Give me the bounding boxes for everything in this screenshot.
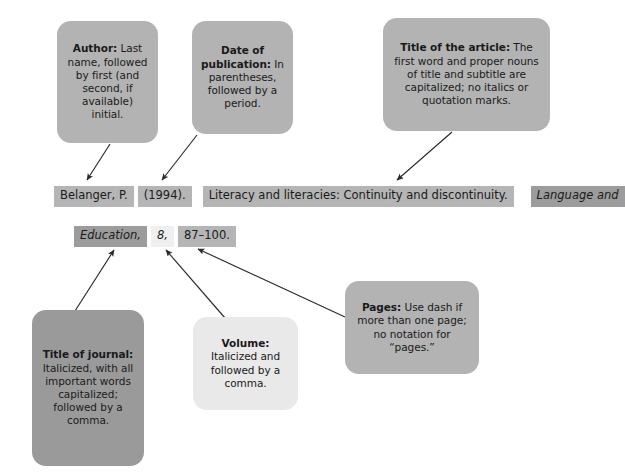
citation-journal-title-chunk-b: Education, <box>74 226 147 247</box>
callout-pages-text: Pages: Use dash if more than one page; n… <box>353 301 471 354</box>
callout-author: Author: Last name, followed by first (an… <box>57 21 158 143</box>
callout-date-of-publication: Date of publication: In parentheses, fol… <box>192 21 293 134</box>
arrow-journal-to-citation <box>75 250 114 311</box>
callout-journal-text: Title of journal: Italicized, with all i… <box>40 348 136 427</box>
citation-date-chunk: (1994). <box>138 186 192 207</box>
callout-journal-title: Title of journal: <box>43 348 134 360</box>
callout-volume-body: Italicized and followed by a comma. <box>211 350 280 388</box>
callout-title-of-the-article: Title of the article: The first word and… <box>383 18 550 131</box>
callout-title-of-journal: Title of journal: Italicized, with all i… <box>32 310 144 466</box>
callout-author-title: Author: <box>73 42 117 54</box>
callout-pages-title: Pages: <box>362 301 401 313</box>
callout-article-title-title: Title of the article: <box>400 41 510 53</box>
citation-volume-chunk: 8, <box>151 226 174 247</box>
arrow-article-title-to-citation <box>397 132 452 180</box>
citation-journal-title-chunk-a: Language and <box>531 186 625 207</box>
citation-line-1: Belanger, P. (1994). Literacy and litera… <box>54 186 625 207</box>
citation-article-title-chunk: Literacy and literacies: Continuity and … <box>203 186 514 207</box>
callout-volume: Volume: Italicized and followed by a com… <box>193 317 298 410</box>
callout-date-text: Date of publication: In parentheses, fol… <box>200 44 285 110</box>
callout-journal-body: Italicized, with all important words cap… <box>43 362 133 427</box>
callout-pages: Pages: Use dash if more than one page; n… <box>345 281 479 374</box>
arrow-volume-to-citation <box>166 250 225 318</box>
arrow-pages-to-citation <box>198 249 345 317</box>
citation-author-chunk: Belanger, P. <box>54 186 134 207</box>
arrow-author-to-citation <box>87 144 110 180</box>
callout-article-title-text: Title of the article: The first word and… <box>391 41 542 107</box>
callout-author-text: Author: Last name, followed by first (an… <box>65 42 150 121</box>
citation-pages-chunk: 87–100. <box>178 226 236 247</box>
callout-volume-title: Volume: <box>222 337 270 349</box>
callout-volume-text: Volume: Italicized and followed by a com… <box>201 337 290 390</box>
callout-date-title: Date of publication: <box>201 44 271 69</box>
arrow-date-to-citation <box>162 135 197 180</box>
citation-line-2: Education, 8, 87–100. <box>74 226 236 247</box>
